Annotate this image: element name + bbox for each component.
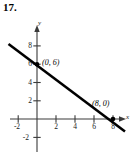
y-tick-label-8: 8 <box>21 42 32 50</box>
x-tick-label-4: 4 <box>69 123 81 131</box>
y-axis <box>34 25 39 152</box>
y-tick-label-6: 6 <box>21 60 32 68</box>
y-axis-label: y <box>38 19 41 27</box>
x-tick-label-8: 8 <box>107 123 119 131</box>
point-marker-x-intercept <box>111 117 116 122</box>
y-tick-label-4: 4 <box>21 79 32 87</box>
y-tick-label-neg2: -2 <box>18 134 29 142</box>
plotted-line <box>9 44 126 132</box>
x-tick-label-6: 6 <box>88 123 100 131</box>
math-figure: 17. <box>0 0 133 154</box>
y-tick-label-2: 2 <box>21 97 32 105</box>
x-tick-label-2: 2 <box>50 123 62 131</box>
point-label-x-intercept: (8, 0) <box>92 99 109 108</box>
x-tick-label-neg2: -2 <box>11 123 23 131</box>
point-marker-y-intercept <box>35 62 40 67</box>
x-axis-label: x <box>126 113 129 121</box>
point-label-y-intercept: (0, 6) <box>42 58 59 67</box>
